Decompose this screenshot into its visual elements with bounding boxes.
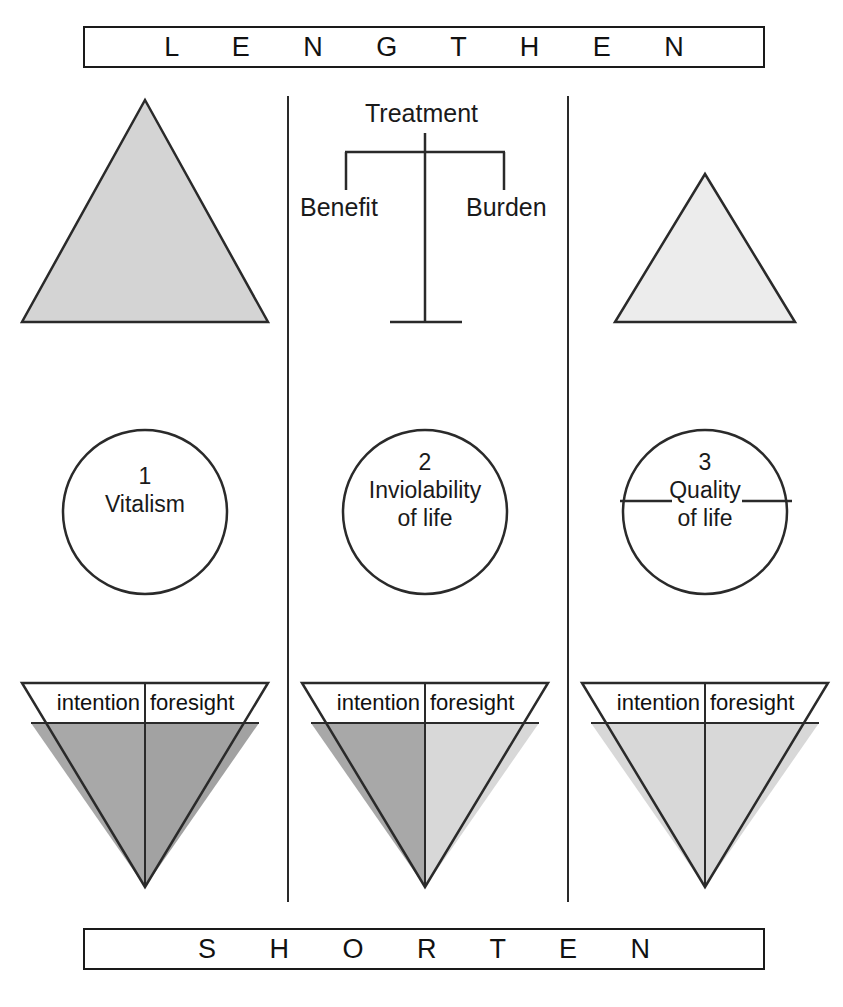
triangle-3-label-foresight: foresight (710, 690, 830, 716)
circle-number-1: 1 (50, 462, 240, 490)
circle-line2-2: of life (398, 505, 453, 531)
circle-label-column-3: 3 Quality of life (610, 448, 800, 532)
triangle-up-column-1 (22, 100, 268, 322)
triangle-2-label-intention: intention (314, 690, 420, 716)
circle-line1-2: Inviolability (369, 477, 482, 503)
circle-number-3: 3 (610, 448, 800, 476)
triangle-down-2-right-fill (425, 723, 539, 887)
triangle-2-label-foresight: foresight (430, 690, 550, 716)
circle-line1-3: Quality (669, 477, 741, 503)
circle-number-2: 2 (330, 448, 520, 476)
triangle-down-2-left-fill (311, 723, 425, 887)
banner-shorten: S H O R T E N (83, 928, 765, 970)
triangle-down-1-left-fill (31, 723, 145, 887)
scale-label-benefit: Benefit (300, 193, 378, 222)
triangle-down-1-right-fill (145, 723, 259, 887)
triangle-1-label-foresight: foresight (150, 690, 270, 716)
balance-scale (345, 133, 505, 322)
triangle-3-label-intention: intention (594, 690, 700, 716)
circle-line2-3: of life (678, 505, 733, 531)
banner-shorten-label: S H O R T E N (175, 934, 673, 965)
circle-label-column-1: 1 Vitalism (50, 462, 240, 518)
triangle-down-3-right-fill (705, 723, 819, 887)
triangle-down-3-left-fill (591, 723, 705, 887)
circle-label-column-2: 2 Inviolability of life (330, 448, 520, 532)
diagram-canvas: L E N G T H E N (0, 0, 843, 1007)
scale-title-treatment: Treatment (365, 99, 478, 128)
triangle-up-column-3 (615, 174, 795, 322)
circle-line1-1: Vitalism (105, 491, 185, 517)
scale-label-burden: Burden (466, 193, 547, 222)
triangle-1-label-intention: intention (34, 690, 140, 716)
